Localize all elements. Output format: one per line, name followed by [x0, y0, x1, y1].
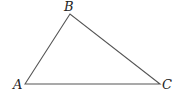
triangle-diagram: B A C: [0, 0, 181, 93]
vertex-label-c: C: [162, 77, 172, 92]
vertex-label-b: B: [63, 0, 74, 14]
vertex-label-a: A: [12, 77, 22, 92]
triangle-abc: [25, 14, 160, 84]
